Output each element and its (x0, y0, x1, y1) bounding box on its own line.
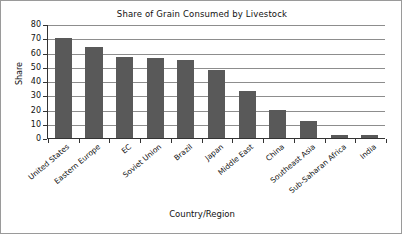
y-axis-tick-label: 40 (1, 78, 41, 86)
x-axis-tick-mark (386, 139, 387, 143)
bar-slot (201, 25, 232, 138)
y-axis-tick-mark (43, 139, 47, 140)
bar (147, 58, 164, 138)
y-axis-tick-label: 0 (1, 135, 41, 143)
bar (55, 38, 72, 138)
bar (116, 57, 133, 138)
bar-slot (262, 25, 293, 138)
y-axis-tick-label: 20 (1, 107, 41, 115)
y-axis-tick-label: 60 (1, 50, 41, 58)
bar-slot (232, 25, 263, 138)
bar (361, 135, 378, 138)
plot-area (47, 25, 385, 139)
bar (239, 91, 256, 138)
chart-title: Share of Grain Consumed by Livestock (1, 9, 402, 19)
x-axis-category-labels: United StatesEastern EuropeECSoviet Unio… (47, 141, 385, 207)
y-axis-tick-label: 70 (1, 35, 41, 43)
bar-slot (324, 25, 355, 138)
bar-slot (293, 25, 324, 138)
bar (208, 70, 225, 138)
bar (331, 135, 348, 138)
y-axis-tick-label: 80 (1, 21, 41, 29)
bar (85, 47, 102, 138)
y-axis-title: Share (15, 54, 24, 94)
bar (177, 60, 194, 138)
y-axis-tick-label: 50 (1, 64, 41, 72)
bar-slot (171, 25, 202, 138)
bar-slot (354, 25, 385, 138)
bar (300, 121, 317, 138)
x-axis-title: Country/Region (1, 209, 402, 219)
bar-slot (48, 25, 79, 138)
y-axis-tick-label: 10 (1, 121, 41, 129)
bar-slot (109, 25, 140, 138)
bar-chart-figure: Share of Grain Consumed by Livestock Sha… (0, 0, 402, 234)
bar-slot (79, 25, 110, 138)
bar-series (48, 25, 385, 138)
bar-slot (140, 25, 171, 138)
y-axis-tick-label: 30 (1, 92, 41, 100)
bar (269, 110, 286, 139)
